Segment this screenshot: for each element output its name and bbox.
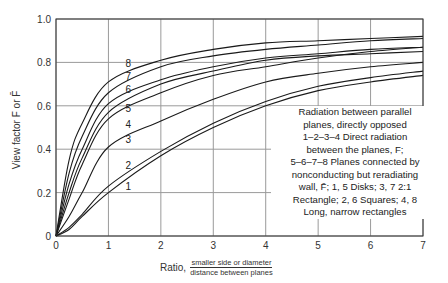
x-tick-label: 6 [368, 240, 374, 251]
curve-label-8: 8 [126, 58, 132, 69]
y-axis-label: View factor F or F̄ [10, 91, 22, 170]
x-tick-label: 3 [211, 240, 217, 251]
annotation-line: Rectangle; 2, 6 Squares; 4, 8 [271, 194, 439, 207]
y-tick-label: 0.4 [37, 144, 51, 155]
y-tick-label: 0.2 [37, 188, 51, 199]
curve-label-6: 6 [126, 84, 132, 95]
x-tick-label: 1 [106, 240, 112, 251]
x-axis-label-text: Ratio, [160, 262, 186, 273]
y-tick-label: 0.8 [37, 57, 51, 68]
curve-label-4: 4 [126, 119, 132, 130]
y-tick-label: 1.0 [37, 14, 51, 25]
y-axis-ticks: 00.20.40.60.81.0 [37, 14, 51, 242]
x-axis-label-fraction: smaller side or diameter distance betwee… [190, 258, 273, 277]
annotation-line: between the planes, F; [271, 144, 439, 157]
fraction-numerator: smaller side or diameter [190, 258, 272, 268]
curve-label-7: 7 [126, 71, 132, 82]
annotation-line: Long, narrow rectangles [271, 206, 439, 219]
x-tick-label: 2 [158, 240, 164, 251]
x-tick-label: 0 [53, 240, 59, 251]
x-tick-label: 4 [263, 240, 269, 251]
curve-label-3: 3 [126, 134, 132, 145]
x-axis-label: Ratio, smaller side or diameter distance… [160, 258, 273, 277]
x-axis-ticks: 01234567 [53, 240, 426, 251]
annotation-line: nonconducting but reradiating [271, 169, 439, 182]
y-tick-label: 0 [45, 231, 51, 242]
annotation-line: 5–6–7–8 Planes connected by [271, 156, 439, 169]
y-tick-label: 0.6 [37, 101, 51, 112]
curve-label-5: 5 [126, 103, 132, 114]
annotation-line: planes, directly opposed [271, 119, 439, 132]
fraction-denominator: distance between planes [190, 268, 273, 277]
x-tick-label: 7 [420, 240, 426, 251]
curve-label-1: 1 [126, 181, 132, 192]
annotation-line: wall, F̄; 1, 5 Disks; 3, 7 2:1 [271, 181, 439, 194]
chart-annotation: Radiation between parallel planes, direc… [271, 106, 439, 219]
annotation-line: 1–2–3–4 Direct radiation [271, 131, 439, 144]
x-tick-label: 5 [315, 240, 321, 251]
annotation-line: Radiation between parallel [271, 106, 439, 119]
curve-label-2: 2 [126, 160, 132, 171]
